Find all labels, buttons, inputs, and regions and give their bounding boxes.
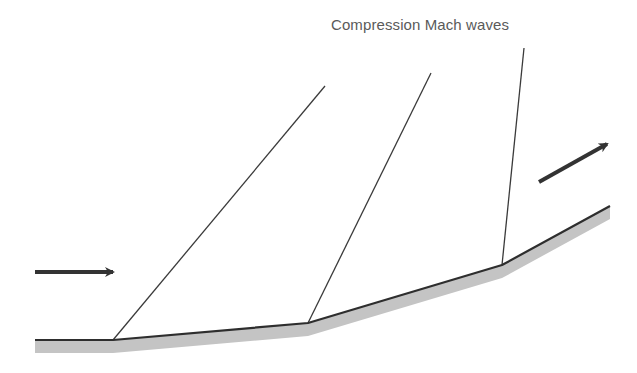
outgoing-flow-arrow-icon [539, 144, 607, 182]
mach-waves [113, 48, 524, 340]
mach-wave-1 [113, 86, 325, 340]
compression-mach-waves-label: Compression Mach waves [331, 16, 509, 33]
compression-wave-diagram: Compression Mach waves [0, 0, 637, 373]
mach-wave-3 [502, 48, 524, 265]
mach-wave-2 [308, 73, 431, 323]
diagram-canvas [0, 0, 637, 373]
flow-arrows [35, 144, 607, 272]
